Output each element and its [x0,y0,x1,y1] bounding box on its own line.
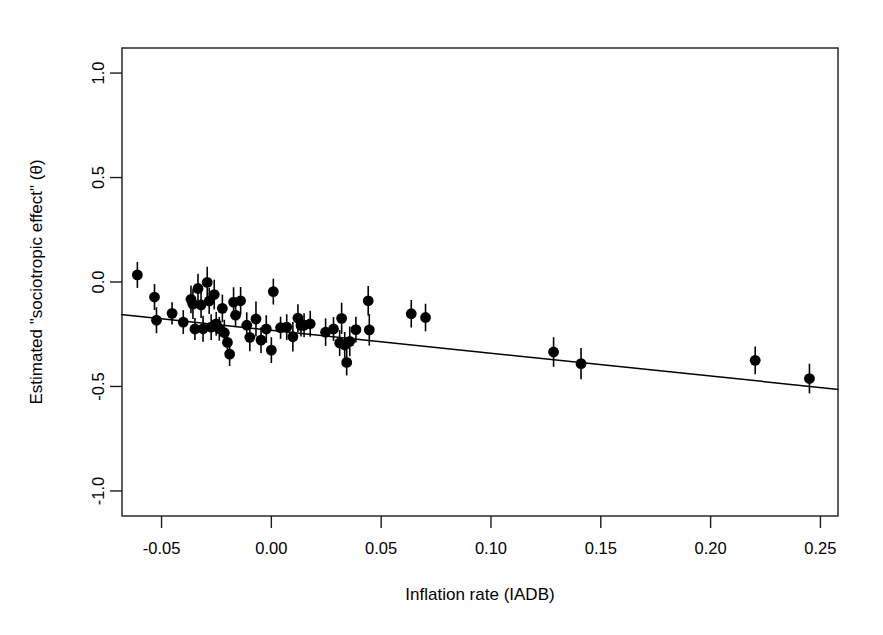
x-tick-label: 0.25 [804,539,836,557]
data-point [244,332,255,343]
y-tick-label: -0.5 [89,372,107,400]
data-point [363,295,374,306]
plot-canvas: 1.00.50.0-0.5-1.0 -0.050.000.050.100.150… [0,0,883,635]
plot-box-border [122,48,838,516]
data-point [406,308,417,319]
y-tick-label: 0.0 [89,271,107,294]
data-point [281,322,292,333]
data-point [202,277,213,288]
data-point [336,313,347,324]
error-bars-group [137,262,809,393]
x-axis-ticks: -0.050.000.050.100.150.200.25 [143,516,837,557]
data-point [224,349,235,360]
data-point [235,295,246,306]
x-tick-label: 0.00 [255,539,287,557]
x-tick-label: 0.05 [365,539,397,557]
data-point [222,337,233,348]
x-tick-label: 0.10 [475,539,507,557]
data-point [178,317,189,328]
data-point [576,358,587,369]
x-tick-label: -0.05 [143,539,181,557]
x-tick-label: 0.20 [695,539,727,557]
scatter-plot-figure: 1.00.50.0-0.5-1.0 -0.050.000.050.100.150… [0,0,883,635]
data-point [268,286,279,297]
data-point [261,324,272,335]
data-point [209,289,220,300]
data-point [364,324,375,335]
x-tick-label: 0.15 [585,539,617,557]
data-point [149,292,160,303]
y-tick-label: -1.0 [89,477,107,505]
x-axis-title: Inflation rate (IADB) [405,585,554,604]
y-tick-label: 1.0 [89,62,107,85]
y-axis-title: Estimated "sociotropic effect" (θ) [27,159,46,404]
y-axis-ticks: 1.00.50.0-0.5-1.0 [89,62,122,506]
data-point [219,327,230,338]
data-point [351,324,362,335]
data-point [193,283,204,294]
data-point [151,315,162,326]
data-point [804,373,815,384]
data-point [344,336,355,347]
data-point [230,310,241,321]
data-point [328,324,339,335]
data-point [251,314,262,325]
data-point [132,269,143,280]
data-point [167,308,178,319]
data-point [241,320,252,331]
data-point [420,312,431,323]
data-point [266,345,277,356]
y-tick-label: 0.5 [89,166,107,189]
data-point [217,303,228,314]
data-point [341,357,352,368]
data-point [287,331,298,342]
data-point [750,355,761,366]
data-point [548,347,559,358]
data-point [256,335,267,346]
data-point [305,318,316,329]
